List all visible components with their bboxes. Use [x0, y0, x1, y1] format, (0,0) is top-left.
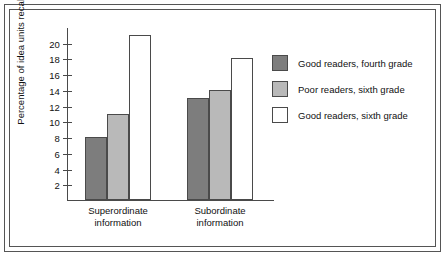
x-axis-category-label-line: information	[67, 217, 169, 229]
x-axis-line	[67, 200, 274, 201]
y-axis-tick-label: 6	[55, 148, 60, 159]
legend-item: Good readers, fourth grade	[272, 50, 413, 76]
y-axis-tick-label: 2	[55, 180, 60, 191]
bar	[209, 90, 231, 200]
legend-swatch	[272, 81, 288, 97]
bar	[231, 58, 253, 200]
chart-legend: Good readers, fourth gradePoor readers, …	[272, 50, 413, 128]
x-axis-category-label: Subordinateinformation	[169, 205, 271, 229]
x-axis-category-label: Superordinateinformation	[67, 205, 169, 229]
x-axis-category-label-line: Subordinate	[169, 205, 271, 217]
legend-label: Good readers, sixth grade	[298, 110, 408, 121]
legend-item: Poor readers, sixth grade	[272, 76, 413, 102]
bar	[107, 114, 129, 201]
y-axis-tick-label: 4	[55, 164, 60, 175]
x-axis-category-label-line: information	[169, 217, 271, 229]
y-axis-tick-label: 10	[49, 117, 60, 128]
y-axis-title: Percentage of idea units recalled	[15, 0, 26, 131]
legend-item: Good readers, sixth grade	[272, 102, 413, 128]
y-axis-tick-label: 12	[49, 101, 60, 112]
bar	[129, 35, 151, 200]
legend-label: Good readers, fourth grade	[298, 58, 413, 69]
bar	[85, 137, 107, 200]
bar	[187, 98, 209, 200]
y-axis-tick-label: 16	[49, 70, 60, 81]
y-axis-tick-label: 20	[49, 38, 60, 49]
plot-area	[67, 28, 271, 200]
y-axis-tick-label: 14	[49, 85, 60, 96]
y-axis-tick-label: 18	[49, 54, 60, 65]
legend-label: Poor readers, sixth grade	[298, 84, 405, 95]
legend-swatch	[272, 107, 288, 123]
legend-swatch	[272, 55, 288, 71]
figure: Percentage of idea units recalled 246810…	[0, 0, 447, 258]
y-axis-tick-label: 8	[55, 133, 60, 144]
x-axis-category-label-line: Superordinate	[67, 205, 169, 217]
